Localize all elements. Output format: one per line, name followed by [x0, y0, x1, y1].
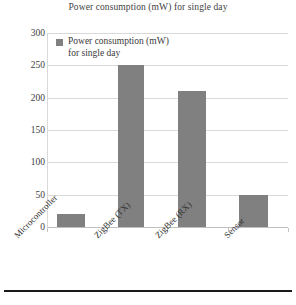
ytick-label-200: 200 — [11, 93, 45, 103]
ytick-label-50: 50 — [11, 190, 45, 200]
chart-title: Power consumption (mW) for single day — [0, 2, 296, 12]
ytick-label-300: 300 — [11, 28, 45, 38]
legend-label: Power consumption (mW) for single day — [68, 36, 169, 59]
ytick-label-250: 250 — [11, 60, 45, 70]
ytick-label-100: 100 — [11, 157, 45, 167]
chart-legend: Power consumption (mW) for single day — [56, 36, 169, 59]
legend-swatch-icon — [56, 39, 63, 46]
gridline-150 — [47, 130, 288, 131]
plot-area — [47, 33, 288, 228]
legend-label-line2: for single day — [68, 48, 120, 58]
gridline-100 — [47, 162, 288, 163]
legend-label-line1: Power consumption (mW) — [68, 36, 169, 46]
gridline-200 — [47, 98, 288, 99]
ytick-label-150: 150 — [11, 125, 45, 135]
xtick-mark-0 — [47, 228, 48, 232]
gridline-300 — [47, 33, 288, 34]
figure: Power consumption (mW) for single day 30… — [0, 0, 296, 305]
figure-separator-rule — [4, 290, 292, 292]
bar-microcontroller[interactable] — [57, 214, 85, 227]
xtick-mark-4 — [288, 228, 289, 232]
gridline-250 — [47, 65, 288, 66]
